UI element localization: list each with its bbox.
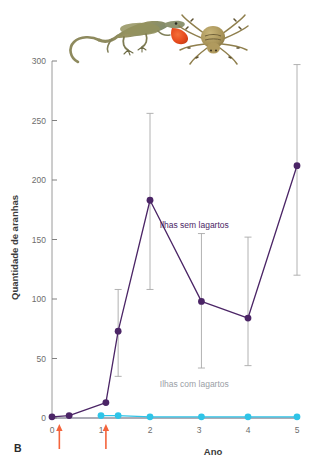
- y-tick-label: 150: [32, 235, 46, 245]
- arrow-head: [56, 424, 62, 431]
- x-axis-title: Ano: [204, 446, 223, 457]
- data-point: [49, 413, 56, 420]
- series-annotation: Ilhas sem lagartos: [160, 220, 229, 230]
- intro-arrow-2: [103, 424, 109, 449]
- spider-photo: [179, 15, 248, 64]
- data-point: [245, 315, 252, 322]
- y-axis-title: Quantidade de aranhas: [9, 195, 20, 300]
- y-tick-label: 0: [41, 413, 46, 423]
- y-tick-label: 50: [37, 354, 47, 364]
- data-point: [294, 413, 301, 420]
- data-point: [115, 328, 122, 335]
- data-point: [115, 412, 122, 419]
- x-tick-label: 1: [99, 425, 104, 435]
- y-tick-label: 100: [32, 294, 46, 304]
- series-ilhas-sem-lagartos: [49, 65, 301, 421]
- series-annotation: Ilhas com lagartos: [160, 379, 229, 389]
- data-point: [147, 413, 154, 420]
- series-ilhas-com-lagartos: [98, 412, 301, 420]
- intro-arrow-1: [56, 424, 62, 449]
- data-point: [103, 399, 110, 406]
- y-axis-ticks: 050100150200250300: [32, 56, 57, 423]
- figure-panel: 050100150200250300 012345 Quantidade de …: [0, 0, 314, 464]
- data-point: [198, 298, 205, 305]
- x-tick-label: 5: [295, 425, 300, 435]
- data-point: [198, 413, 205, 420]
- y-tick-label: 250: [32, 116, 46, 126]
- data-point: [147, 197, 154, 204]
- data-point: [294, 162, 301, 169]
- data-point: [66, 412, 73, 419]
- data-point: [98, 412, 105, 419]
- data-series-layer: [49, 65, 301, 421]
- series-annotations: Ilhas sem lagartosIlhas com lagartos: [160, 220, 229, 389]
- x-tick-label: 0: [50, 425, 55, 435]
- x-tick-label: 2: [148, 425, 153, 435]
- x-tick-label: 3: [197, 425, 202, 435]
- anole-lizard-photo: [71, 21, 189, 62]
- panel-label: B: [14, 442, 22, 454]
- arrow-head: [103, 424, 109, 431]
- x-tick-label: 4: [246, 425, 251, 435]
- y-tick-label: 200: [32, 175, 46, 185]
- y-tick-label: 300: [32, 56, 46, 66]
- data-point: [245, 413, 252, 420]
- x-axis-ticks: 012345: [50, 425, 300, 435]
- chart-axes: [52, 61, 300, 418]
